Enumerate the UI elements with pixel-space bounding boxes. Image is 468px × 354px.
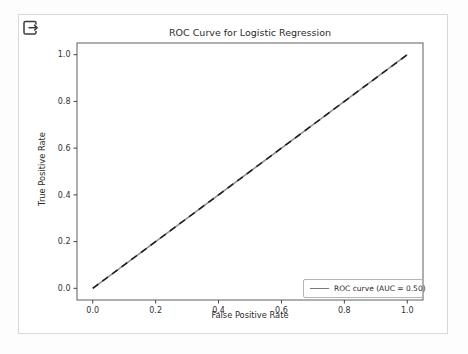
page-background: 0.00.20.40.60.81.00.00.20.40.60.81.0 ROC…	[0, 0, 468, 354]
y-tick-label: 1.0	[58, 50, 71, 59]
y-tick-label: 0.8	[58, 97, 71, 106]
y-tick-label: 0.0	[58, 284, 71, 293]
y-tick-label: 0.2	[58, 237, 71, 246]
legend-line-sample	[310, 288, 329, 289]
legend: ROC curve (AUC = 0.50)	[303, 279, 423, 298]
y-axis-label: True Positive Rate	[37, 114, 47, 224]
x-axis-label: False Positive Rate	[77, 310, 423, 320]
y-tick-label: 0.4	[58, 191, 71, 200]
legend-entry-label: ROC curve (AUC = 0.50)	[334, 284, 426, 293]
y-tick-label: 0.6	[58, 144, 71, 153]
chart-title: ROC Curve for Logistic Regression	[77, 27, 423, 38]
figure-card: 0.00.20.40.60.81.00.00.20.40.60.81.0 ROC…	[18, 14, 448, 334]
